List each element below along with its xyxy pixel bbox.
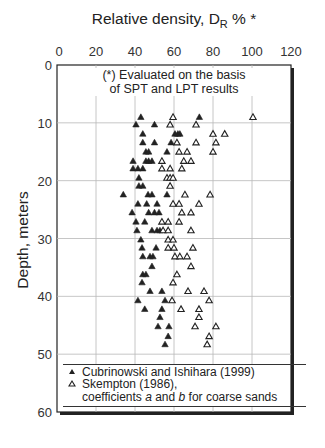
x-tick-label: 20 <box>89 44 103 59</box>
depth-vs-relative-density-chart: Relative density, DR % * Depth, meters 0… <box>0 0 325 448</box>
legend-label-skempton-line2: coefficients a and b for coarse sands <box>82 390 277 404</box>
chart-title-subscript: R <box>220 18 228 30</box>
legend-text-part: for coarse sands <box>185 390 277 404</box>
annotation-line-2: of SPT and LPT results <box>110 82 239 96</box>
y-tick-label: 10 <box>38 116 52 131</box>
x-tick-label: 80 <box>206 44 220 59</box>
y-tick-label: 60 <box>38 405 52 420</box>
x-tick-label: 60 <box>167 44 181 59</box>
x-axis-ticks: 020406080100120 <box>55 44 301 59</box>
y-axis-ticks: 0102030405060 <box>38 58 52 420</box>
legend: Cubrinowski and Ishihara (1999) Skempton… <box>60 364 306 407</box>
annotation-line-1: (*) Evaluated on the basis <box>102 68 245 82</box>
y-tick-label: 40 <box>38 289 52 304</box>
chart-title: Relative density, DR % * <box>92 10 256 30</box>
chart-title-main: Relative density, D <box>92 10 220 27</box>
x-tick-label: 100 <box>241 44 263 59</box>
x-tick-label: 40 <box>128 44 142 59</box>
y-tick-label: 20 <box>38 174 52 189</box>
legend-label-skempton: Skempton (1986), <box>82 377 177 391</box>
y-tick-label: 0 <box>45 58 52 73</box>
legend-text-part: coefficients <box>82 390 145 404</box>
y-axis-title: Depth, meters <box>14 191 31 289</box>
legend-text-part: and <box>152 390 179 404</box>
x-tick-label: 0 <box>55 44 62 59</box>
chart-title-suffix: % * <box>228 10 256 27</box>
y-tick-label: 30 <box>38 232 52 247</box>
y-tick-label: 50 <box>38 347 52 362</box>
x-tick-label: 120 <box>280 44 302 59</box>
